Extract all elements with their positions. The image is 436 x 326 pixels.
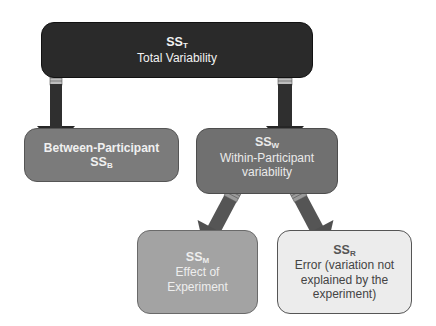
between-description: Between-Participant — [44, 141, 159, 155]
ss-between-label: SSB — [90, 155, 112, 171]
residual-description-line3: experiment) — [313, 287, 376, 301]
node-error-residual: SSR Error (variation not explained by th… — [277, 230, 412, 314]
within-description-line1: Within-Participant — [220, 151, 314, 165]
model-description-line1: Effect of — [176, 265, 220, 279]
node-between-participant: Between-Participant SSB — [24, 128, 179, 182]
total-description: Total Variability — [137, 51, 217, 65]
within-description-line2: variability — [242, 165, 292, 179]
ss-total-label: SST — [166, 35, 188, 51]
node-total-variability: SST Total Variability — [41, 22, 313, 78]
node-effect-of-experiment: SSM Effect of Experiment — [137, 230, 258, 314]
residual-description-line1: Error (variation not — [295, 258, 394, 272]
residual-description-line2: explained by the — [301, 273, 388, 287]
model-description-line2: Experiment — [167, 280, 228, 294]
ss-residual-label: SSR — [333, 243, 355, 259]
node-within-participant: SSW Within-Participant variability — [196, 128, 338, 194]
ss-within-label: SSW — [255, 135, 279, 151]
ss-model-label: SSM — [186, 250, 209, 266]
